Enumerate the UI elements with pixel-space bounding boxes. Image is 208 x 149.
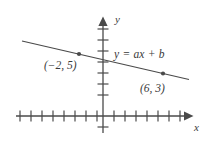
point-label-minus2-5: (−2, 5): [44, 60, 77, 72]
point-label-6-3: (6, 3): [140, 83, 165, 95]
graph-canvas: [0, 0, 208, 149]
x-axis-arrowhead: [184, 111, 194, 120]
y-axis-arrowhead: [98, 17, 107, 27]
y-axis-label: y: [115, 14, 120, 25]
point-marker-minus2-5: [77, 52, 81, 56]
equation-label: y = ax + b: [114, 49, 165, 61]
x-axis-label: x: [194, 122, 199, 133]
point-marker-6-3: [161, 71, 165, 75]
coordinate-plane-figure: y x y = ax + b (−2, 5) (6, 3): [0, 0, 208, 149]
x-axis: [16, 111, 194, 122]
